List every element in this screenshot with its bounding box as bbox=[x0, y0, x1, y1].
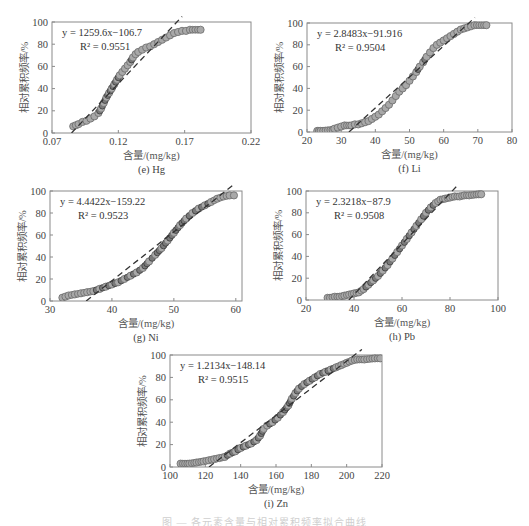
plot-frame bbox=[52, 22, 251, 133]
x-tick-label: 220 bbox=[374, 470, 390, 481]
x-tick-label: 60 bbox=[438, 135, 449, 146]
data-point bbox=[230, 192, 237, 199]
x-axis-label: 含量/(mg/kg) bbox=[123, 149, 180, 162]
x-tick-label: 0.17 bbox=[175, 136, 193, 147]
y-tick-label: 20 bbox=[156, 439, 167, 450]
y-tick-label: 40 bbox=[36, 252, 47, 263]
y-tick-label: 80 bbox=[38, 39, 49, 50]
scatter-points bbox=[324, 191, 485, 302]
scatter-points bbox=[59, 192, 238, 302]
x-tick-label: 60 bbox=[231, 304, 242, 315]
data-point bbox=[483, 22, 490, 29]
x-tick-label: 50 bbox=[404, 135, 415, 146]
y-tick-label: 100 bbox=[287, 18, 303, 29]
y-tick-label: 20 bbox=[38, 105, 49, 116]
y-tick-label: 60 bbox=[156, 394, 167, 405]
x-tick-label: 0.22 bbox=[242, 136, 260, 147]
x-axis-label: 含量/(mg/kg) bbox=[381, 148, 438, 161]
x-tick-label: 0.07 bbox=[43, 136, 61, 147]
y-axis-label: 相对累积频率/% bbox=[273, 41, 285, 113]
data-point bbox=[197, 26, 204, 33]
x-axis-label: 含量/(mg/kg) bbox=[374, 316, 431, 329]
x-tick-label: 20 bbox=[301, 303, 312, 314]
y-tick-label: 80 bbox=[293, 39, 304, 50]
plot-frame bbox=[50, 191, 242, 301]
x-axis-label: 含量/(mg/kg) bbox=[118, 317, 175, 330]
chart-panel-g: 02040608010030405060y = 4.4422x−159.22R²… bbox=[16, 186, 242, 345]
x-tick-label: 30 bbox=[45, 304, 56, 315]
x-tick-label: 100 bbox=[490, 303, 506, 314]
y-tick-label: 40 bbox=[156, 417, 167, 428]
y-tick-label: 100 bbox=[286, 186, 302, 197]
x-tick-label: 80 bbox=[507, 135, 518, 146]
fit-equation: y = 1259.6x−106.7 bbox=[62, 27, 142, 38]
y-tick-label: 20 bbox=[293, 105, 304, 116]
x-tick-label: 80 bbox=[445, 303, 456, 314]
r-squared: R² = 0.9515 bbox=[198, 374, 248, 385]
panel-label: (h) Pb bbox=[389, 331, 415, 343]
x-tick-label: 70 bbox=[473, 135, 484, 146]
y-axis-label: 相对累积频率/% bbox=[272, 209, 284, 281]
x-tick-label: 60 bbox=[397, 303, 408, 314]
y-axis-label: 相对累积频率/% bbox=[136, 375, 148, 447]
data-point bbox=[377, 355, 384, 362]
fit-equation: y = 4.4422x−159.22 bbox=[60, 196, 145, 207]
y-tick-label: 60 bbox=[36, 230, 47, 241]
x-tick-label: 0.12 bbox=[109, 136, 127, 147]
y-tick-label: 60 bbox=[38, 61, 49, 72]
x-tick-label: 160 bbox=[268, 470, 284, 481]
fit-equation: y = 2.3218x−87.9 bbox=[316, 196, 391, 207]
y-tick-label: 80 bbox=[156, 372, 167, 383]
x-tick-label: 180 bbox=[303, 470, 319, 481]
r-squared: R² = 0.9523 bbox=[78, 210, 128, 221]
x-tick-label: 40 bbox=[349, 303, 360, 314]
y-tick-label: 100 bbox=[30, 186, 46, 197]
y-tick-label: 20 bbox=[292, 273, 303, 284]
y-tick-label: 40 bbox=[292, 251, 303, 262]
y-tick-label: 60 bbox=[292, 229, 303, 240]
y-axis-label: 相对累积频率/% bbox=[18, 41, 30, 113]
panel-label: (g) Ni bbox=[133, 332, 158, 344]
y-tick-label: 100 bbox=[150, 350, 166, 361]
panel-label: (f) Li bbox=[398, 163, 421, 175]
y-tick-label: 60 bbox=[293, 61, 304, 72]
chart-panel-h: 02040608010020406080100y = 2.3218x−87.9R… bbox=[272, 186, 506, 344]
r-squared: R² = 0.9508 bbox=[334, 210, 384, 221]
x-tick-label: 30 bbox=[336, 135, 347, 146]
x-tick-label: 100 bbox=[162, 470, 178, 481]
chart-panel-i: 020406080100100120140160180200220y = 1.2… bbox=[136, 349, 390, 510]
y-tick-label: 80 bbox=[292, 207, 303, 218]
figure-caption: 图 — 各元素含量与相对累积频率拟合曲线 bbox=[0, 514, 529, 526]
x-tick-label: 50 bbox=[169, 304, 180, 315]
y-tick-label: 100 bbox=[32, 17, 48, 28]
r-squared: R² = 0.9504 bbox=[335, 42, 386, 53]
y-axis-label: 相对累积频率/% bbox=[16, 210, 28, 282]
x-tick-label: 40 bbox=[107, 304, 118, 315]
scatter-points bbox=[177, 355, 384, 467]
panel-label: (e) Hg bbox=[138, 164, 166, 176]
data-point bbox=[478, 191, 485, 198]
plot-frame bbox=[170, 355, 382, 467]
fit-equation: y = 2.8483x−91.916 bbox=[317, 28, 402, 39]
y-tick-label: 40 bbox=[293, 83, 304, 94]
chart-panel-f: 02040608010020304050607080y = 2.8483x−91… bbox=[273, 18, 517, 176]
x-tick-label: 120 bbox=[197, 470, 213, 481]
chart-panel-e: 0204060801000.070.120.170.22y = 1259.6x−… bbox=[18, 16, 260, 176]
x-tick-label: 20 bbox=[302, 135, 313, 146]
panel-label: (i) Zn bbox=[264, 498, 289, 510]
x-axis-label: 含量/(mg/kg) bbox=[248, 483, 305, 496]
y-tick-label: 80 bbox=[36, 208, 47, 219]
x-tick-label: 200 bbox=[339, 470, 355, 481]
fit-equation: y = 1.2134x−148.14 bbox=[180, 360, 266, 371]
x-tick-label: 140 bbox=[233, 470, 249, 481]
y-tick-label: 40 bbox=[38, 83, 49, 94]
r-squared: R² = 0.9551 bbox=[80, 41, 130, 52]
x-tick-label: 40 bbox=[370, 135, 381, 146]
y-tick-label: 20 bbox=[36, 274, 47, 285]
figure-svg: 0204060801000.070.120.170.22y = 1259.6x−… bbox=[0, 0, 529, 526]
